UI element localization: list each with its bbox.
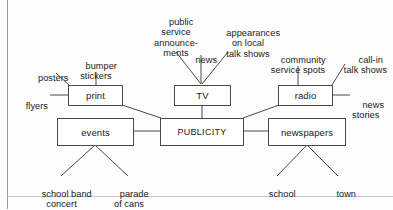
connector-radio-publicity [243, 105, 279, 118]
connector-events-school-band-concert [61, 145, 95, 176]
leaf-text-school-band-concert: school band concert [42, 189, 92, 210]
connector-print-publicity [122, 105, 161, 118]
leaf-text-news-stories: news stories [352, 100, 384, 121]
leaf-text-flyers: flyers [26, 101, 48, 111]
leaf-label-town: town [318, 178, 364, 209]
leaf-text-town: town [336, 189, 356, 199]
connector-newspapers-town [307, 145, 338, 176]
node-tv[interactable]: TV [174, 85, 231, 106]
node-newspapers-label: newspapers [281, 127, 333, 138]
node-publicity-label: PUBLICITY [177, 127, 226, 137]
node-newspapers[interactable]: newspapers [268, 118, 346, 146]
node-publicity[interactable]: PUBLICITY [160, 118, 244, 146]
node-events-label: events [81, 127, 110, 138]
leaf-label-news-stories: news stories [352, 89, 393, 131]
leaf-label-flyers: flyers [2, 90, 48, 122]
leaf-label-community-service-spots: community service spots [258, 44, 338, 86]
node-radio[interactable]: radio [278, 85, 333, 106]
leaf-text-call-in-talk-shows: call-in talk shows [344, 55, 387, 76]
leaf-label-bumper-stickers: bumper stickers [66, 50, 126, 92]
leaf-text-community-service-spots: community service spots [271, 55, 326, 76]
leaf-label-school: school [250, 178, 304, 209]
node-tv-label: TV [196, 90, 208, 101]
node-radio-label: radio [295, 90, 317, 101]
leaf-label-parade-of-cans: parade of cans [104, 178, 154, 209]
node-events[interactable]: events [57, 118, 134, 146]
leaf-text-bumper-stickers: bumper stickers [80, 61, 117, 82]
connector-events-parade-of-cans [95, 145, 128, 176]
connector-newspapers-school [277, 145, 307, 176]
leaf-text-posters: posters [38, 73, 68, 83]
leaf-label-call-in-talk-shows: call-in talk shows [338, 44, 393, 86]
leaf-text-school: school [269, 189, 296, 199]
leaf-label-school-band-concert: school band concert [19, 178, 104, 209]
leaf-text-parade-of-cans: parade of cans [114, 189, 149, 210]
concept-map-diagram: print TV radio events PUBLICITY newspape… [0, 0, 393, 209]
